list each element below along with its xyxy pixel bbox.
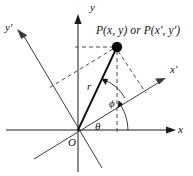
figure-container: P(x, y) or P(x′, y′) y x y′ x′ r θ ϕ O <box>0 0 193 176</box>
dashed-projection-to-x-prime-axis <box>118 51 146 93</box>
x-prime-axis-label: x′ <box>170 64 177 75</box>
x-axis-label: x <box>178 124 183 135</box>
phi-angle-label: ϕ <box>109 98 115 109</box>
phi-angle-arc <box>105 80 125 98</box>
radius-vector-line <box>78 49 116 130</box>
point-p-label: P(x, y) or P(x′, y′) <box>96 25 180 37</box>
dashed-projection-to-y-prime-axis <box>49 49 113 88</box>
theta-angle-arc <box>120 104 128 130</box>
phi-arc-arrowhead <box>101 79 108 86</box>
y-axis-label: y <box>90 2 95 13</box>
x-axis-arrowhead <box>166 126 176 133</box>
y-prime-axis-line <box>22 33 102 168</box>
point-p-marker <box>112 42 122 52</box>
y-prime-axis-label: y′ <box>5 22 12 33</box>
y-prime-axis-arrowhead <box>17 29 27 39</box>
origin-label: O <box>68 137 76 148</box>
theta-angle-label: θ <box>95 121 100 132</box>
y-axis-arrowhead <box>74 14 81 24</box>
radius-label: r <box>87 82 91 93</box>
